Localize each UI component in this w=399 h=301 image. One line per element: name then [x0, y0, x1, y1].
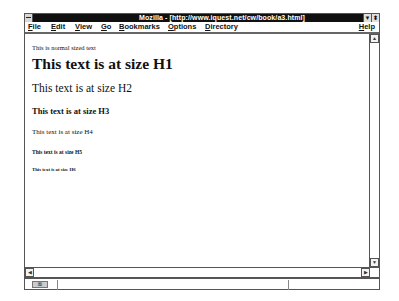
scroll-left-button[interactable]: ◀ [25, 268, 34, 277]
status-divider [288, 280, 289, 290]
heading-h5: This text is at size H5 [32, 149, 82, 155]
menu-bookmarks-label: ookmarks [124, 22, 159, 31]
security-key-glyph: ⚿ [38, 281, 42, 287]
scroll-up-icon: ▲ [372, 35, 377, 41]
menu-options[interactable]: Options [168, 22, 196, 32]
menu-view-label: iew [80, 22, 92, 31]
minimize-button[interactable]: ▼ [363, 14, 371, 22]
menu-help-label: elp [364, 22, 375, 31]
minimize-icon: ▼ [365, 15, 371, 21]
menu-help[interactable]: Help [359, 22, 375, 32]
heading-h4: This text is at size H4 [32, 128, 93, 136]
scroll-right-icon: ▶ [364, 269, 368, 275]
status-bar: ⚿ [25, 277, 379, 289]
heading-h6: This text is at size H6 [32, 167, 76, 172]
menu-edit-label: dit [56, 22, 65, 31]
title-bar[interactable]: Mozilla - [http://www.iquest.net/cw/book… [25, 14, 379, 22]
menu-edit[interactable]: Edit [51, 22, 65, 32]
restore-button[interactable]: ⬍ [371, 14, 379, 22]
window-title: Mozilla - [http://www.iquest.net/cw/book… [85, 14, 359, 22]
browser-window: Mozilla - [http://www.iquest.net/cw/book… [24, 13, 380, 290]
vertical-scrollbar[interactable]: ▲ ▼ [369, 34, 379, 267]
status-divider [57, 280, 58, 290]
heading-h2: This text is at size H2 [32, 82, 132, 94]
menu-bar: File Edit View Go Bookmarks Options Dire… [25, 22, 379, 34]
security-key-icon[interactable]: ⚿ [32, 281, 48, 288]
scroll-down-button[interactable]: ▼ [370, 258, 379, 267]
restore-icon: ⬍ [373, 15, 378, 21]
menu-file-label: ile [33, 22, 41, 31]
menu-file[interactable]: File [28, 22, 41, 32]
menu-go-label: o [107, 22, 112, 31]
menu-directory-label: irectory [210, 22, 238, 31]
menu-bookmarks[interactable]: Bookmarks [119, 22, 160, 32]
heading-h3: This text is at size H3 [32, 106, 109, 116]
menu-view[interactable]: View [75, 22, 92, 32]
menu-options-label: ptions [174, 22, 197, 31]
scrollbar-corner [369, 267, 379, 277]
menu-directory[interactable]: Directory [205, 22, 238, 32]
scroll-down-icon: ▼ [372, 259, 377, 265]
horizontal-scrollbar[interactable]: ◀ ▶ [25, 267, 370, 277]
heading-h1: This text is at size H1 [32, 55, 173, 73]
normal-text: This is normal sized text [32, 44, 96, 51]
page-content: This is normal sized text This text is a… [25, 34, 370, 267]
menu-go[interactable]: Go [101, 22, 111, 32]
scroll-up-button[interactable]: ▲ [370, 34, 379, 43]
system-menu-icon[interactable] [25, 14, 33, 22]
scroll-left-icon: ◀ [28, 269, 32, 275]
